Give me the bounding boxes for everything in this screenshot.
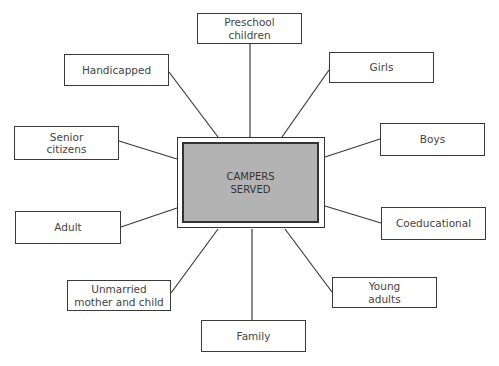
node-label: Family	[237, 330, 271, 343]
node-adult: Adult	[15, 211, 121, 244]
node-label: Girls	[370, 61, 394, 74]
node-young-adults: Young adults	[332, 277, 437, 308]
node-label: Unmarried mother and child	[74, 283, 164, 308]
node-label: Boys	[420, 133, 445, 146]
node-girls: Girls	[329, 52, 434, 83]
node-family: Family	[201, 320, 306, 352]
node-coeducational: Coeducational	[381, 207, 486, 240]
node-preschool-children: Preschool children	[197, 13, 302, 44]
node-boys: Boys	[380, 123, 485, 156]
node-unmarried-mother-and-child: Unmarried mother and child	[67, 280, 171, 311]
node-label: Young adults	[368, 280, 400, 305]
edge-adult	[121, 208, 177, 227]
node-label: Preschool children	[224, 16, 274, 41]
node-label: Senior citizens	[47, 131, 87, 156]
node-handicapped: Handicapped	[64, 54, 169, 86]
edge-handicapped	[169, 72, 218, 137]
edge-boys	[325, 139, 380, 157]
edge-unmarried	[171, 229, 218, 293]
node-label: Handicapped	[82, 64, 151, 77]
center-node-label: CAMPERS SERVED	[226, 170, 274, 196]
node-label: Adult	[54, 221, 81, 234]
edge-young	[285, 229, 332, 292]
edge-girls	[282, 70, 329, 137]
edge-senior	[119, 141, 177, 159]
edge-coeducational	[325, 206, 381, 223]
center-node-campers-served: CAMPERS SERVED	[182, 142, 319, 223]
node-senior-citizens: Senior citizens	[14, 126, 119, 160]
node-label: Coeducational	[396, 217, 471, 230]
